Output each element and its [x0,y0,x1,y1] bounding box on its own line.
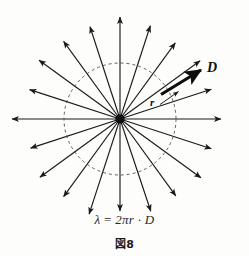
d-vector-bold-arrow [161,70,201,95]
flux-arrow [64,119,120,197]
flux-arrow [120,119,176,196]
flux-arrow [40,119,120,177]
formula-rhs: 2πr · D [115,212,154,227]
figure-caption: 図8 [0,235,249,251]
flux-arrow [120,89,211,119]
flux-arrow [120,26,150,119]
formula-equals: = [104,212,112,227]
flux-formula: λ = 2πr · D [0,212,249,228]
flux-arrow [30,90,120,119]
flux-arrow [90,27,120,119]
flux-arrow [120,119,151,211]
formula-lhs: λ [94,212,100,227]
flux-arrow [120,119,201,178]
flux-arrow-group [12,17,221,214]
point-charge-center [115,114,124,123]
flux-arrow [31,119,120,148]
radius-label: r [150,96,154,108]
figure-container: D r λ = 2πr · D 図8 [0,0,249,256]
flux-arrow [39,60,120,119]
d-vector-label: D [207,60,217,76]
flux-arrow [120,43,175,119]
flux-arrow [64,41,120,119]
flux-arrow [120,119,211,149]
flux-arrow [89,119,120,214]
flux-arrow [120,61,200,119]
